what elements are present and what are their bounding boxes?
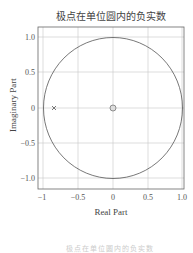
svg-text:0: 0 [31, 104, 35, 113]
y-tick-labels: 1.0 0.5 0 −0.5 −1.0 [20, 33, 35, 183]
svg-text:−1.0: −1.0 [20, 174, 35, 183]
x-tick-labels: −1 −0.5 0 0.5 1.0 [38, 193, 187, 202]
svg-text:0: 0 [111, 193, 115, 202]
svg-text:1.0: 1.0 [25, 33, 35, 42]
svg-text:−1: −1 [38, 193, 47, 202]
figure-caption: 极点在单位圆内的负实数 [40, 243, 180, 253]
x-axis-label: Real Part [38, 207, 184, 217]
svg-text:−0.5: −0.5 [71, 193, 86, 202]
zero-marker-circle-icon [110, 105, 116, 111]
svg-text:1.0: 1.0 [177, 193, 187, 202]
svg-text:0.5: 0.5 [25, 68, 35, 77]
y-axis-label: Imaginary Part [8, 60, 18, 150]
svg-text:−0.5: −0.5 [20, 139, 35, 148]
svg-text:0.5: 0.5 [143, 193, 153, 202]
